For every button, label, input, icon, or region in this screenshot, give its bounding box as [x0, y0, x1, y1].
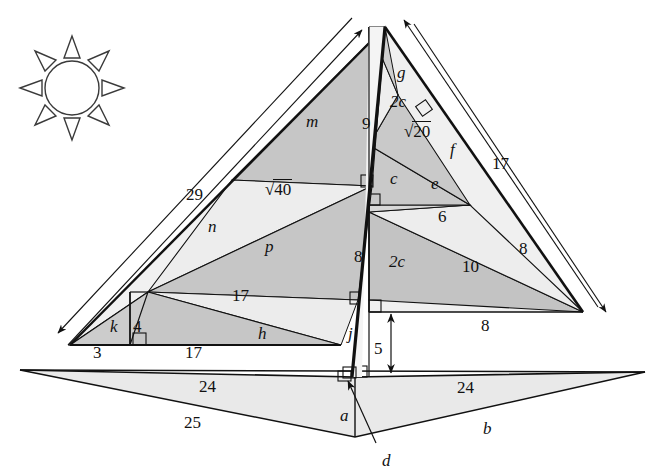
label-sqrt20: √20 — [404, 123, 431, 140]
label-c: c — [390, 170, 398, 187]
sun-ray-n — [64, 36, 80, 58]
radicand: 40 — [273, 179, 292, 199]
label-17-mid: 17 — [232, 287, 249, 304]
label-17-low: 17 — [185, 344, 202, 361]
label-k: k — [110, 318, 118, 335]
label-n: n — [208, 218, 217, 235]
base-plate — [20, 370, 645, 437]
sun-ray-e — [102, 80, 124, 96]
label-4: 4 — [133, 318, 142, 335]
label-9: 9 — [362, 115, 371, 132]
label-g: g — [397, 64, 406, 81]
dimension-arrow-5 — [369, 312, 583, 373]
sun-ray-s — [64, 118, 80, 140]
label-d: d — [382, 452, 391, 469]
label-2c-mid: 2c — [389, 253, 405, 270]
label-2c-top: 2c — [390, 93, 406, 110]
sun-ray-w — [20, 80, 42, 96]
label-5: 5 — [374, 340, 383, 357]
sun-disc — [45, 61, 99, 115]
label-b: b — [483, 420, 492, 437]
label-h: h — [258, 325, 267, 342]
label-8-bottom: 8 — [481, 317, 490, 334]
label-sqrt40: √40 — [265, 181, 292, 198]
label-m: m — [306, 113, 318, 130]
label-p: p — [265, 238, 274, 255]
label-10: 10 — [462, 258, 479, 275]
radicand: 20 — [412, 121, 431, 141]
label-24-left: 24 — [199, 378, 216, 395]
geometry-figure — [0, 0, 665, 475]
base-quadrilateral — [20, 366, 645, 437]
label-3: 3 — [93, 344, 102, 361]
diagram-canvas: m9g2c√20f17ce√4029n6p82c108178hjk4317524… — [0, 0, 665, 475]
label-f: f — [450, 141, 455, 158]
label-e: e — [431, 175, 439, 192]
label-8-left: 8 — [354, 248, 363, 265]
label-29: 29 — [186, 186, 203, 203]
label-24-right: 24 — [457, 379, 474, 396]
sun-icon — [20, 36, 124, 140]
label-a: a — [340, 407, 349, 424]
pyramid-left-half — [70, 27, 385, 345]
label-25: 25 — [184, 414, 201, 431]
label-j: j — [348, 325, 353, 342]
label-17-right: 17 — [492, 155, 509, 172]
label-8-right: 8 — [519, 240, 528, 257]
label-6: 6 — [438, 208, 447, 225]
